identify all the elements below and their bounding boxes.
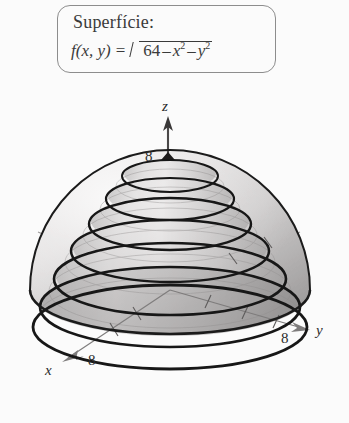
y-axis-tick-label: 8 <box>281 330 289 347</box>
minus-sign-2: – <box>187 41 196 60</box>
exponent-x: 2 <box>180 40 185 51</box>
minus-sign-1: – <box>162 41 171 60</box>
equals-sign: = <box>116 41 126 61</box>
y-axis-label: y <box>316 322 323 339</box>
exponent-y: 2 <box>205 40 210 51</box>
caption-title: Superfície: <box>73 12 154 33</box>
surface-formula: f(x, y) = 64–x2–y2 <box>71 40 210 61</box>
z-axis-tick-label: 8 <box>145 148 153 165</box>
function-name: f(x, y) <box>71 41 111 61</box>
z-axis-label: z <box>162 98 168 115</box>
radicand-constant: 64 <box>143 41 160 60</box>
square-root-symbol: 64–x2–y2 <box>130 40 210 61</box>
radicand: 64–x2–y2 <box>143 41 210 60</box>
x-axis-tick-label: 8 <box>88 352 96 369</box>
x-axis-label: x <box>45 362 52 379</box>
